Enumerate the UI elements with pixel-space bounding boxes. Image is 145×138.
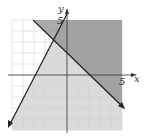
y-tick-label: 5 [57,15,63,26]
y-axis-arrow-icon [65,8,69,14]
y-axis-label: y [57,3,64,14]
x-tick-label: 5 [119,76,125,87]
inequality-graph: y x 5 5 [0,0,145,138]
x-axis-label: x [134,73,140,84]
